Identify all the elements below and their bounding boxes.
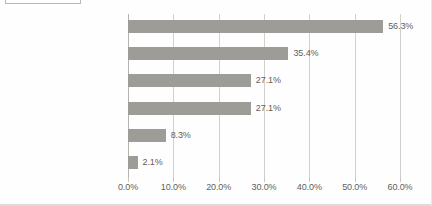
x-tick-label: 0.0% <box>118 182 138 192</box>
bar-row: システム部門35.4% <box>128 41 400 68</box>
x-tick-label: 20.0% <box>206 182 231 192</box>
bar <box>128 156 138 169</box>
x-tick-label: 10.0% <box>161 182 186 192</box>
bar-value-label: 35.4% <box>293 47 318 60</box>
axis-baseline <box>0 204 431 205</box>
bar <box>128 20 383 33</box>
bar-value-label: 2.1% <box>143 156 163 169</box>
x-tick-label: 30.0% <box>251 182 276 192</box>
bar-row: ユーザー部門27.1% <box>128 96 400 123</box>
bar-row: 経営企画部門8.3% <box>128 123 400 150</box>
x-tick-label: 50.0% <box>342 182 367 192</box>
x-axis-tick-labels: 0.0%10.0%20.0%30.0%40.0%50.0%60.0% <box>0 182 432 196</box>
bar-chart-figure: 働き方改革・RPA推進部門56.3%システム部門35.4%コンサルティング会社2… <box>0 0 432 206</box>
bar <box>128 74 251 87</box>
bar-value-label: 8.3% <box>171 129 191 142</box>
plot-area: 働き方改革・RPA推進部門56.3%システム部門35.4%コンサルティング会社2… <box>128 14 400 177</box>
x-tick-label: 60.0% <box>387 182 412 192</box>
bar <box>128 102 251 115</box>
bar-series: 働き方改革・RPA推進部門56.3%システム部門35.4%コンサルティング会社2… <box>128 14 400 177</box>
bar-value-label: 27.1% <box>256 74 281 87</box>
gridline-60.0 <box>400 14 401 177</box>
bar-value-label: 27.1% <box>256 102 281 115</box>
bar-row: 働き方改革・RPA推進部門56.3% <box>128 14 400 41</box>
bar <box>128 129 166 142</box>
x-tick-label: 40.0% <box>297 182 322 192</box>
bar <box>128 47 288 60</box>
bar-value-label: 56.3% <box>388 20 413 33</box>
chart-title-box <box>5 0 81 4</box>
bar-row: コンサルティング会社27.1% <box>128 68 400 95</box>
bar-row: SIer（関連会社以外）2.1% <box>128 150 400 177</box>
